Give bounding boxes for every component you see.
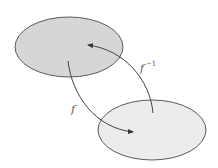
f-inverse-superscript: −1 [146, 60, 156, 68]
f-inverse-label: f [139, 62, 146, 75]
function-inverse-diagram: f f −1 [0, 0, 218, 168]
codomain-set-ellipse [98, 100, 206, 160]
f-label: f [70, 103, 77, 116]
